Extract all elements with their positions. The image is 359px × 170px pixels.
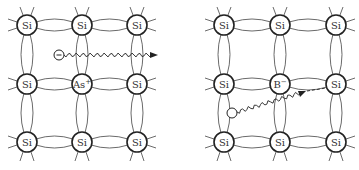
bond <box>233 145 271 148</box>
bond <box>91 136 128 139</box>
bond-stub <box>273 152 276 161</box>
bond-stub <box>86 152 89 161</box>
bond-stub <box>205 145 214 148</box>
bond <box>21 34 24 75</box>
bond <box>289 19 327 22</box>
n-type-panel: SiSiSiSiAs+SiSiSiSi <box>8 7 158 161</box>
atom-label: Si <box>22 137 32 148</box>
bond-stub <box>346 19 355 22</box>
bond-stub <box>273 7 276 15</box>
atom-label: Si <box>275 20 285 31</box>
bond-stub <box>141 152 144 161</box>
bond <box>21 93 24 133</box>
bond-stub <box>75 152 78 161</box>
bond-stub <box>205 136 214 139</box>
lattice-diagram: SiSiSiSiAs+SiSiSiSiSiSiSiSiB−SiSiSiSi <box>0 0 359 170</box>
atom-label: Si <box>132 20 142 31</box>
bond <box>91 28 128 31</box>
bond <box>85 93 88 133</box>
bond-stub <box>228 7 231 15</box>
bond <box>339 34 342 75</box>
bond-stub <box>346 78 355 81</box>
bond-stub <box>346 87 355 90</box>
bond-stub <box>86 7 89 15</box>
bond <box>36 28 73 31</box>
bond-stub <box>20 152 23 161</box>
bond-stub <box>147 78 156 81</box>
bond <box>227 34 230 75</box>
bond-stub <box>284 7 287 15</box>
atom-label: Si <box>77 137 87 148</box>
bond <box>233 87 271 90</box>
bond-stub <box>284 152 287 161</box>
bond <box>91 87 128 90</box>
bond <box>233 136 271 139</box>
bond-stub <box>8 19 17 22</box>
bond-stub <box>346 145 355 148</box>
hole-path <box>237 92 300 113</box>
hole-icon <box>227 108 237 118</box>
p-type-panel: SiSiSiSiB−SiSiSiSi <box>205 7 355 161</box>
atom-label: Si <box>331 79 341 90</box>
bond-stub <box>20 7 23 15</box>
bond-stub <box>31 152 34 161</box>
atom-label: Si <box>331 20 341 31</box>
bond-stub <box>141 7 144 15</box>
atom-label: Si <box>331 137 341 148</box>
bond-stub <box>8 28 17 31</box>
bond <box>131 93 134 133</box>
bond-stub <box>340 7 343 15</box>
bond <box>91 145 128 148</box>
bond-stub <box>217 152 220 161</box>
bond-stub <box>205 87 214 90</box>
bond <box>339 93 342 133</box>
bond <box>289 87 327 90</box>
bond-stub <box>147 28 156 31</box>
atom-label: Si <box>132 137 142 148</box>
arrow-head-icon <box>298 91 306 97</box>
bond <box>289 145 327 148</box>
bond <box>36 136 73 139</box>
bond-stub <box>217 7 220 15</box>
bond <box>274 34 277 75</box>
bond-stub <box>329 152 332 161</box>
bond <box>30 34 33 75</box>
bond-stub <box>75 7 78 15</box>
atom-label: Si <box>132 79 142 90</box>
bond <box>233 19 271 22</box>
bond-stub <box>8 145 17 148</box>
bond-stub <box>130 7 133 15</box>
electron-path <box>64 53 152 57</box>
bond-stub <box>340 152 343 161</box>
bond-stub <box>228 152 231 161</box>
bond <box>233 28 271 31</box>
bond-stub <box>205 19 214 22</box>
bond <box>36 19 73 22</box>
bond <box>289 28 327 31</box>
bond-stub <box>205 78 214 81</box>
atom-label: Si <box>219 137 229 148</box>
bond <box>218 93 221 133</box>
bond <box>233 78 271 81</box>
bond <box>289 78 327 81</box>
bond-stub <box>8 87 17 90</box>
bond <box>36 78 73 81</box>
bond <box>36 145 73 148</box>
bond-stub <box>8 78 17 81</box>
bond-stub <box>346 28 355 31</box>
bond <box>330 93 333 133</box>
bond-stub <box>147 145 156 148</box>
bond <box>85 34 88 75</box>
bond <box>289 136 327 139</box>
bond <box>91 19 128 22</box>
bond <box>36 87 73 90</box>
arrow-head-icon <box>150 52 158 58</box>
atom-label: Si <box>77 20 87 31</box>
atom-label: Si <box>275 137 285 148</box>
bond-stub <box>329 7 332 15</box>
bond <box>140 93 143 133</box>
bond-stub <box>147 136 156 139</box>
bond <box>283 34 286 75</box>
atom-label: Si <box>219 20 229 31</box>
bond-stub <box>346 136 355 139</box>
